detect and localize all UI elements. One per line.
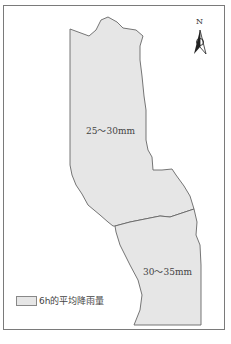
legend-label: 6h的平均降雨量 <box>39 294 104 307</box>
map-svg <box>0 0 231 344</box>
north-region-polygon <box>70 17 194 226</box>
north-arrow-icon <box>194 30 206 54</box>
north-region-label: 25～30mm <box>86 124 135 137</box>
south-region-label: 30～35mm <box>143 265 192 278</box>
legend-swatch <box>16 296 37 306</box>
legend: 6h的平均降雨量 <box>16 294 104 307</box>
north-arrow-label: N <box>196 17 203 26</box>
